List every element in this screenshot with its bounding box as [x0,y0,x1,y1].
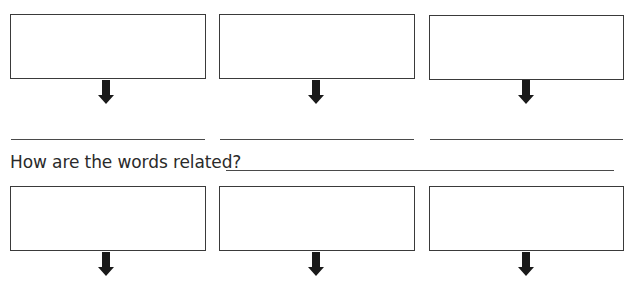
down-arrow-icon [98,252,114,276]
down-arrow-icon [308,80,324,104]
bottom-box-3[interactable] [429,186,624,251]
word-line-3[interactable] [430,139,623,140]
relation-answer-line[interactable] [226,170,614,171]
down-arrow-icon [518,80,534,104]
bottom-box-1[interactable] [10,186,206,251]
top-box-3[interactable] [429,15,624,80]
question-label: How are the words related? [10,152,241,172]
bottom-box-2[interactable] [219,186,415,251]
down-arrow-icon [308,252,324,276]
down-arrow-icon [518,252,534,276]
down-arrow-icon [98,80,114,104]
top-box-2[interactable] [219,14,415,79]
word-line-1[interactable] [11,139,205,140]
word-line-2[interactable] [220,139,414,140]
top-box-1[interactable] [10,14,206,79]
